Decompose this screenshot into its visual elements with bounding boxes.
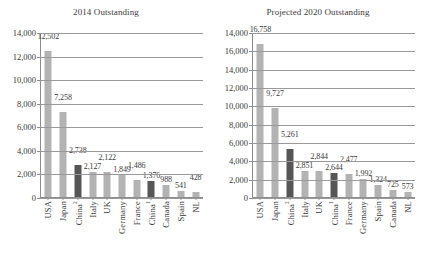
gridline [252, 180, 415, 181]
gridline [40, 57, 203, 58]
bar-value-label: 988 [160, 175, 172, 184]
x-axis-category-label: France [132, 201, 142, 225]
y-tick-mark [249, 88, 252, 89]
bar [316, 171, 323, 197]
y-tick-label: 12,000 [225, 83, 248, 93]
bar-value-label: 2,122 [99, 153, 117, 162]
footnote-marker: 1 [328, 201, 334, 204]
x-axis-category-label: China2 [284, 201, 296, 225]
bar-value-label: 2,477 [340, 155, 358, 164]
y-tick-mark [37, 151, 40, 152]
bar-slot [282, 33, 297, 197]
x-axis-category-label: UK [102, 201, 112, 214]
gridline [40, 127, 203, 128]
footnote-marker: 2 [284, 201, 290, 204]
gridline [40, 198, 203, 199]
x-axis-category-label: Spain [176, 201, 186, 221]
bar [89, 172, 96, 197]
bar-slot [41, 33, 56, 197]
y-tick-label: 14,000 [225, 65, 248, 75]
bar [360, 179, 367, 197]
bar [104, 172, 111, 197]
bar [257, 44, 264, 197]
y-tick-mark [249, 198, 252, 199]
bar-slot [327, 33, 342, 197]
gridline [40, 104, 203, 105]
bar [60, 112, 67, 197]
bar [345, 174, 352, 197]
y-tick-mark [37, 127, 40, 128]
footnote-marker: 2 [72, 201, 78, 204]
x-axis-category-label: Canada [388, 201, 398, 228]
bar-slot [268, 33, 283, 197]
gridline [40, 174, 203, 175]
bar [286, 149, 293, 197]
x-axis-category-label: UK [314, 201, 324, 214]
bar-value-label: 9,727 [266, 89, 284, 98]
x-axis-category-label: Germany [117, 201, 127, 234]
x-axis-category-label: Italy [300, 201, 310, 218]
y-tick-mark [249, 106, 252, 107]
gridline [40, 33, 203, 34]
bar-slot [159, 33, 174, 197]
bar-value-label: 2,851 [296, 161, 314, 170]
y-tick-mark [37, 104, 40, 105]
y-tick-label: 4,000 [17, 146, 36, 156]
chart-panel-2014: 2014 Outstanding 12,5027,2582,7382,1272,… [0, 0, 212, 261]
bar-slot [312, 33, 327, 197]
y-tick-mark [249, 180, 252, 181]
bar-slot [371, 33, 386, 197]
y-tick-label: 12,000 [13, 52, 36, 62]
bar-slot [297, 33, 312, 197]
plot-area-2014: 12,5027,2582,7382,1272,1221,8491,4861,37… [40, 33, 203, 198]
bar-slot [253, 33, 268, 197]
bar-value-label: 2,844 [311, 152, 329, 161]
bar [375, 185, 382, 197]
bar-slot [386, 33, 401, 197]
chart-panel-2020: Projected 2020 Outstanding 16,7589,7275,… [212, 0, 424, 261]
bar [272, 108, 279, 197]
gridline [252, 198, 415, 199]
gridline [40, 151, 203, 152]
x-axis-category-label: NL [403, 201, 413, 213]
y-tick-mark [249, 125, 252, 126]
category-labels-2020: USAJapanChina2ItalyUKChina1FranceGermany… [253, 201, 415, 259]
y-tick-label: 0 [244, 193, 248, 203]
y-tick-label: 14,000 [225, 28, 248, 38]
category-labels-2014: USAJapanChina2ItalyUKGermanyFranceChina1… [41, 201, 203, 259]
bar [389, 190, 396, 197]
bar [74, 165, 81, 197]
bar [330, 173, 337, 197]
chart-title-2020: Projected 2020 Outstanding [212, 7, 424, 17]
chart-title-2014: 2014 Outstanding [0, 7, 212, 17]
y-tick-label: 8,000 [229, 120, 248, 130]
bar-group-2020: 16,7589,7275,2612,8512,8442,6442,4771,99… [253, 33, 415, 197]
bar-slot [85, 33, 100, 197]
x-axis-category-label: USA [43, 201, 53, 219]
y-tick-mark [249, 51, 252, 52]
gridline [252, 143, 415, 144]
gridline [252, 106, 415, 107]
x-axis-category-label: Japan [270, 201, 280, 221]
y-tick-mark [249, 70, 252, 71]
y-tick-label: 16,000 [225, 46, 248, 56]
x-axis-category-label: Canada [161, 201, 171, 228]
bar-slot [174, 33, 189, 197]
gridline [252, 51, 415, 52]
y-tick-mark [249, 143, 252, 144]
bar-value-label: 2,127 [84, 162, 102, 171]
y-tick-label: 6,000 [17, 122, 36, 132]
y-tick-label: 6,000 [229, 138, 248, 148]
x-axis-category-label: Japan [58, 201, 68, 221]
x-axis-category-label: Italy [88, 201, 98, 218]
bar-value-label: 7,258 [54, 93, 72, 102]
bar [133, 180, 140, 197]
x-axis-category-label: USA [255, 201, 265, 219]
x-axis-category-label: China1 [328, 201, 340, 225]
gridline [252, 88, 415, 89]
x-axis-category-label: China1 [146, 201, 158, 225]
bar-value-label: 573 [402, 182, 414, 191]
bar-value-label: 1,486 [128, 161, 146, 170]
plot-area-2020: 16,7589,7275,2612,8512,8442,6442,4771,99… [252, 33, 415, 198]
y-tick-mark [37, 33, 40, 34]
